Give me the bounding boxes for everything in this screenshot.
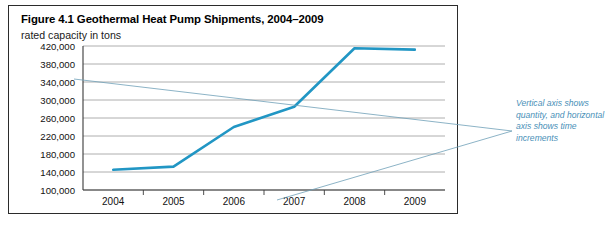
- caption-sliver: [8, 221, 258, 227]
- plot-area: 100,000140,000180,000220,000260,000300,0…: [21, 46, 447, 206]
- y-axis-tick-label: 180,000: [21, 149, 75, 160]
- y-axis-tick-label: 100,000: [21, 185, 75, 196]
- figure-root: Figure 4.1 Geothermal Heat Pump Shipment…: [0, 0, 610, 227]
- x-axis-tick-label: 2004: [102, 196, 124, 207]
- y-axis-tick-label: 340,000: [21, 77, 75, 88]
- chart-svg: [21, 46, 447, 206]
- annotation-text: Vertical axis shows quantity, and horizo…: [516, 98, 608, 144]
- y-axis-tick-label: 220,000: [21, 131, 75, 142]
- x-axis-tick-label: 2005: [162, 196, 184, 207]
- y-axis-tick-label: 260,000: [21, 113, 75, 124]
- x-axis-tick-label: 2006: [223, 196, 245, 207]
- x-axis-ticks: [143, 190, 384, 195]
- y-axis-tick-label: 300,000: [21, 95, 75, 106]
- figure-box: Figure 4.1 Geothermal Heat Pump Shipment…: [8, 5, 458, 214]
- x-axis-tick-label: 2008: [343, 196, 365, 207]
- y-axis-tick-label: 380,000: [21, 59, 75, 70]
- x-axis-tick-label: 2009: [404, 196, 426, 207]
- figure-title: Figure 4.1 Geothermal Heat Pump Shipment…: [21, 13, 323, 25]
- y-axis-tick-label: 420,000: [21, 41, 75, 52]
- y-axis-tick-label: 140,000: [21, 167, 75, 178]
- x-axis-tick-label: 2007: [283, 196, 305, 207]
- figure-subtitle: rated capacity in tons: [21, 29, 121, 41]
- data-series-line: [113, 48, 415, 170]
